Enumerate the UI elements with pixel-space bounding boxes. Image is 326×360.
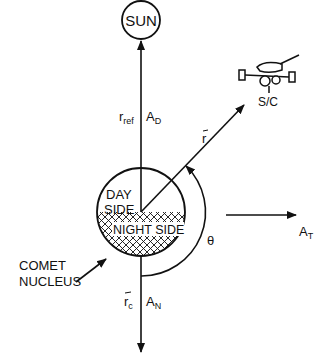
nucleus-label: NUCLEUS [19,274,81,289]
r-ref-label: rref [119,109,134,126]
vector-bar-icon [125,292,131,293]
svg-text:r: r [202,131,207,146]
svg-text:rref: rref [119,109,134,126]
svg-text:rc: rc [124,294,133,311]
spacecraft-label: S/C [258,95,278,109]
a-d-label: AD [146,109,162,126]
r-c-label: rc [124,292,133,311]
night-side-label: NIGHT SIDE [113,223,184,237]
comet-label: COMET [19,258,66,273]
day-side-label-line2: SIDE [104,202,135,217]
a-n-label: AN [146,294,161,311]
spacecraft-icon [239,55,299,93]
svg-text:AT: AT [299,224,314,241]
a-t-label: AT [299,224,314,241]
comet-geometry-diagram: SUN DAY SIDE NIGHT SIDE θ AT rref AD r r… [0,0,326,360]
sun-label: SUN [125,12,157,29]
svg-text:AN: AN [146,294,161,311]
day-side-label-line1: DAY [106,187,132,202]
sun: SUN [122,1,160,39]
svg-text:AD: AD [146,109,162,126]
theta-label: θ [207,233,214,248]
